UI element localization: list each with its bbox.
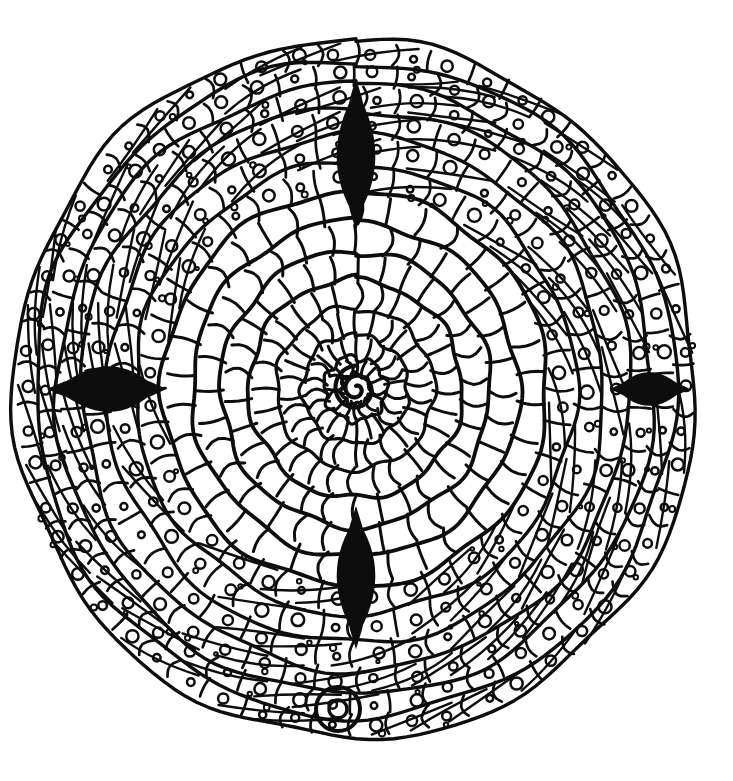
ring-3-divider [253,388,280,390]
artboard [0,0,733,781]
ring-5-divider [354,225,355,253]
ring-1-divider [356,419,357,441]
ring-2-divider [356,441,358,466]
ring-12-divider [673,364,693,366]
ring-10-divider [628,407,651,408]
ring-1-divider [356,338,357,360]
ring-7-divider [358,584,359,611]
ring-11-divider [354,64,355,86]
ring-11-divider [350,692,351,714]
mandala-drawing [0,0,733,781]
ring-5-divider [357,525,358,553]
ring-4-divider [358,255,359,282]
ring-5-divider [196,390,224,391]
ring-11-divider [652,373,673,374]
ring-2-divider [354,312,355,337]
